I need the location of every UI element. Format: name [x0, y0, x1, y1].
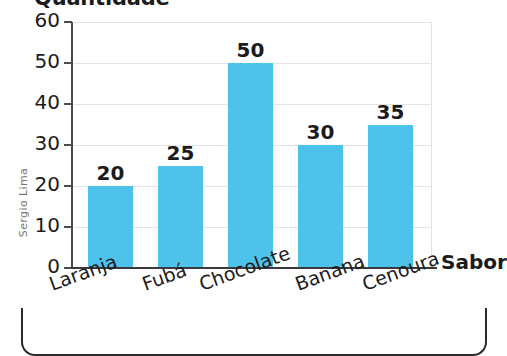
- y-tick-label-60: 60: [2, 10, 60, 30]
- y-tick-20: 20: [64, 185, 72, 187]
- y-tick-label-30: 30: [2, 133, 60, 153]
- y-tick-30: 30: [64, 144, 72, 146]
- bar-chocolate: 50: [228, 63, 273, 268]
- bar-cenoura: 35: [368, 125, 413, 269]
- y-tick-50: 50: [64, 62, 72, 64]
- bar-value-banana: 30: [307, 122, 335, 142]
- bar-value-cenoura: 35: [377, 102, 405, 122]
- bar-fuba: 25: [158, 166, 203, 269]
- bar-banana: 30: [298, 145, 343, 268]
- y-tick-label-20: 20: [2, 174, 60, 194]
- bar-value-laranja: 20: [97, 163, 125, 183]
- bar-value-chocolate: 50: [237, 40, 265, 60]
- bar-value-fuba: 25: [167, 143, 195, 163]
- y-tick-label-10: 10: [2, 215, 60, 235]
- y-tick-label-50: 50: [2, 51, 60, 71]
- bottom-bracket: [21, 308, 487, 356]
- gridline-60: [72, 22, 432, 23]
- y-tick-10: 10: [64, 226, 72, 228]
- plot-area: 20 25 50 30 35: [72, 22, 432, 268]
- y-tick-40: 40: [64, 103, 72, 105]
- x-axis-title: Sabor: [441, 250, 507, 274]
- y-tick-label-40: 40: [2, 92, 60, 112]
- y-tick-60: 60: [64, 21, 72, 23]
- credit-text: Sergio Lima: [17, 155, 30, 251]
